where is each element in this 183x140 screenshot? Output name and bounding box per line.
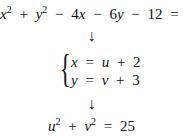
- equals-sign: =: [166, 6, 182, 22]
- operator: −: [89, 6, 105, 22]
- coefficient: 4: [71, 6, 79, 22]
- constant: 2: [133, 54, 141, 70]
- coefficient: 6: [109, 6, 117, 22]
- var-y: y: [71, 72, 78, 88]
- substitution-row-y: y = v + 3: [71, 71, 140, 89]
- exponent: 2: [91, 116, 96, 127]
- operator: +: [112, 72, 128, 88]
- equals-sign: =: [100, 118, 116, 134]
- var-u: u: [102, 54, 110, 70]
- var-y: y: [117, 6, 124, 22]
- equals-sign: =: [81, 54, 97, 70]
- exponent: 2: [7, 4, 12, 15]
- down-arrow-icon: ↓: [0, 27, 183, 45]
- operator: +: [64, 118, 80, 134]
- var-v: v: [102, 72, 109, 88]
- brace-icon: {: [60, 49, 71, 89]
- rhs-value: 25: [120, 118, 135, 134]
- var-x: x: [79, 6, 86, 22]
- var-x: x: [71, 54, 78, 70]
- operator: −: [51, 6, 67, 22]
- original-equation: x2 + y2 − 4x − 6y − 12 = 0: [0, 5, 183, 23]
- operator: +: [113, 54, 129, 70]
- var-x: x: [0, 6, 7, 22]
- constant: 3: [132, 72, 140, 88]
- exponent: 2: [42, 4, 47, 15]
- equals-sign: =: [81, 72, 97, 88]
- operator: −: [127, 6, 143, 22]
- operator: +: [15, 6, 31, 22]
- exponent: 2: [55, 116, 60, 127]
- down-arrow-icon: ↓: [0, 95, 183, 113]
- substitution-row-x: x = u + 2: [71, 53, 141, 71]
- result-equation: u2 + v2 = 25: [0, 117, 183, 135]
- constant: 12: [148, 6, 163, 22]
